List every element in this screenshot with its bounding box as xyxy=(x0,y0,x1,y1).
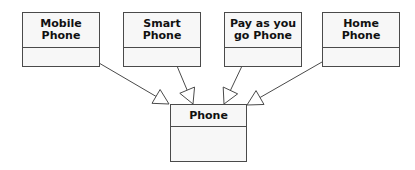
class-attributes-compartment xyxy=(323,48,399,66)
arrow-line xyxy=(177,66,187,90)
class-box-mobile-phone[interactable]: Mobile Phone xyxy=(22,12,100,67)
arrow-line xyxy=(99,63,156,96)
class-attributes-compartment xyxy=(23,48,99,66)
class-attributes-compartment xyxy=(171,127,246,161)
class-box-home-phone[interactable]: Home Phone xyxy=(322,12,400,67)
class-box-smart-phone[interactable]: Smart Phone xyxy=(123,12,201,67)
class-box-pay-as-you-go-phone[interactable]: Pay as you go Phone xyxy=(224,12,302,67)
class-name: Mobile Phone xyxy=(23,13,99,48)
generalization-arrow-pay-as-you-go-phone xyxy=(223,66,242,104)
class-name: Pay as you go Phone xyxy=(225,13,301,48)
generalization-arrow-home-phone xyxy=(247,62,322,105)
class-attributes-compartment xyxy=(124,48,200,66)
hollow-triangle-arrowhead-icon xyxy=(152,90,169,104)
class-box-phone[interactable]: Phone xyxy=(170,104,247,162)
class-name: Phone xyxy=(171,105,246,127)
class-attributes-compartment xyxy=(225,48,301,66)
class-name: Home Phone xyxy=(323,13,399,48)
generalization-arrow-mobile-phone xyxy=(99,63,169,104)
arrow-line xyxy=(260,62,322,98)
class-name: Smart Phone xyxy=(124,13,200,48)
hollow-triangle-arrowhead-icon xyxy=(247,91,264,105)
generalization-arrow-smart-phone xyxy=(177,66,195,104)
arrow-line xyxy=(230,66,242,90)
